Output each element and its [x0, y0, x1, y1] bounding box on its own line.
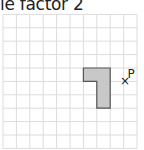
grid-diagram: × P	[0, 0, 144, 150]
point-label: P	[128, 67, 135, 81]
l-shape	[83, 68, 110, 108]
grid-lines	[3, 14, 137, 148]
